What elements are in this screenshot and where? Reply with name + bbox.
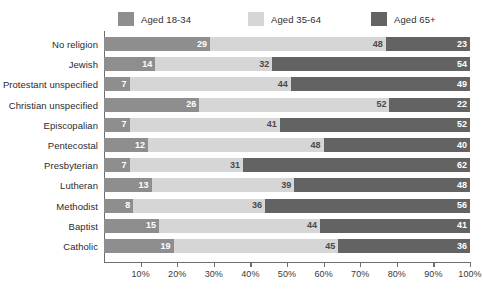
bar-row: Christian unspecified265222 (104, 98, 470, 112)
bar-track: 143254 (104, 57, 470, 71)
bar-value-label: 31 (230, 161, 243, 170)
bar-row: Pentecostal124840 (104, 138, 470, 152)
bar-row: Presbyterian73162 (104, 158, 470, 172)
bar-segment: 44 (130, 77, 291, 91)
bar-row: Catholic194536 (104, 239, 470, 253)
bar-segment: 41 (320, 219, 470, 233)
bar-value-label: 7 (122, 120, 130, 129)
bar-value-label: 29 (197, 40, 210, 49)
bar-segment: 31 (130, 158, 243, 172)
x-axis-tick (141, 263, 142, 267)
x-axis-tick (470, 263, 471, 267)
bar-value-label: 44 (307, 221, 320, 230)
bar-track: 194536 (104, 239, 470, 253)
bar-value-label: 23 (457, 40, 470, 49)
x-axis-tick-label: 30% (205, 269, 223, 279)
bar-value-label: 49 (457, 80, 470, 89)
x-axis-tick (177, 263, 178, 267)
bar-value-label: 45 (325, 242, 338, 251)
bar-segment: 41 (130, 118, 280, 132)
bar-segment: 12 (104, 138, 148, 152)
category-label: Methodist (56, 200, 98, 211)
bar-segment: 13 (104, 178, 152, 192)
bar-value-label: 19 (161, 242, 174, 251)
bar-track: 265222 (104, 98, 470, 112)
bar-segment: 52 (199, 98, 389, 112)
plot-area: No religion294823Jewish143254Protestant … (104, 33, 470, 260)
bar-segment: 44 (159, 219, 320, 233)
bar-row: Jewish143254 (104, 57, 470, 71)
bar-segment: 8 (104, 199, 133, 213)
x-axis: 10%20%30%40%50%60%70%80%90%100% (104, 263, 470, 285)
legend-swatch-icon (118, 12, 134, 26)
bar-segment: 49 (291, 77, 470, 91)
category-label: Episcopalian (44, 119, 98, 130)
legend-item: Aged 35-64 (248, 10, 321, 28)
gridline (470, 33, 471, 262)
bar-segment: 7 (104, 118, 130, 132)
bar-segment: 23 (386, 37, 470, 51)
bar-segment: 52 (280, 118, 470, 132)
category-label: No religion (52, 39, 98, 50)
x-axis-tick (287, 263, 288, 267)
x-axis-tick-label: 60% (314, 269, 332, 279)
bar-segment: 32 (155, 57, 272, 71)
bar-segment: 48 (148, 138, 324, 152)
bar-segment: 14 (104, 57, 155, 71)
bar-segment: 29 (104, 37, 210, 51)
bar-row: Episcopalian74152 (104, 118, 470, 132)
category-label: Pentecostal (48, 140, 98, 151)
x-axis-tick-label: 40% (241, 269, 259, 279)
bar-value-label: 7 (122, 161, 130, 170)
category-label: Catholic (63, 241, 98, 252)
bar-segment: 15 (104, 219, 159, 233)
x-axis-tick-label: 90% (424, 269, 442, 279)
stacked-bar-chart: Aged 18-34Aged 35-64Aged 65+ No religion… (0, 0, 483, 301)
x-axis-tick-label: 100% (458, 269, 481, 279)
bar-value-label: 48 (311, 141, 324, 150)
x-axis-tick-label: 50% (278, 269, 296, 279)
bar-value-label: 13 (139, 181, 152, 190)
bar-value-label: 22 (457, 100, 470, 109)
x-axis-tick-label: 80% (388, 269, 406, 279)
bar-segment: 62 (243, 158, 470, 172)
category-label: Presbyterian (44, 160, 98, 171)
bar-segment: 26 (104, 98, 199, 112)
bar-value-label: 48 (457, 181, 470, 190)
bar-segment: 36 (133, 199, 265, 213)
bar-segment: 39 (152, 178, 295, 192)
legend-swatch-icon (248, 12, 264, 26)
bar-value-label: 54 (457, 60, 470, 69)
bar-row: Baptist154441 (104, 219, 470, 233)
bar-value-label: 8 (125, 201, 133, 210)
category-label: Lutheran (60, 180, 98, 191)
bar-track: 154441 (104, 219, 470, 233)
bar-value-label: 48 (373, 40, 386, 49)
bar-track: 83656 (104, 199, 470, 213)
bar-value-label: 7 (122, 80, 130, 89)
legend-swatch-icon (371, 12, 387, 26)
category-label: Jewish (69, 59, 98, 70)
bar-segment: 56 (265, 199, 470, 213)
legend-item: Aged 65+ (371, 10, 436, 28)
legend-label: Aged 35-64 (271, 14, 321, 25)
bar-segment: 7 (104, 158, 130, 172)
bar-segment: 40 (324, 138, 470, 152)
x-axis-tick-label: 10% (131, 269, 149, 279)
bar-value-label: 41 (457, 221, 470, 230)
bar-value-label: 12 (135, 141, 148, 150)
chart-legend: Aged 18-34Aged 35-64Aged 65+ (104, 10, 483, 30)
bar-track: 133948 (104, 178, 470, 192)
bar-value-label: 52 (457, 120, 470, 129)
bar-value-label: 52 (376, 100, 389, 109)
x-axis-tick-label: 70% (351, 269, 369, 279)
bar-row: Protestant unspecified74449 (104, 77, 470, 91)
x-axis-tick-label: 20% (168, 269, 186, 279)
x-axis-tick (433, 263, 434, 267)
bar-row: Lutheran133948 (104, 178, 470, 192)
bar-value-label: 40 (457, 141, 470, 150)
bar-track: 73162 (104, 158, 470, 172)
legend-label: Aged 18-34 (141, 14, 191, 25)
bar-value-label: 36 (457, 242, 470, 251)
bar-track: 124840 (104, 138, 470, 152)
